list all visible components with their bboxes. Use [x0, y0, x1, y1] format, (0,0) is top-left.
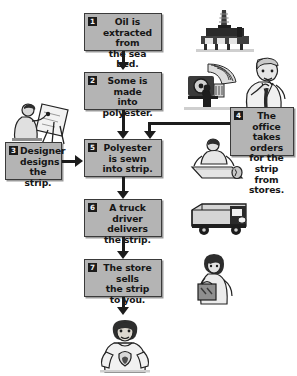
connector-3-to-5	[62, 160, 76, 163]
shop-assistant-with-bag-icon	[190, 252, 248, 306]
arrow-4-to-5	[144, 131, 156, 139]
step-text-3-line-3: the strip.	[9, 167, 58, 188]
step-number-4: 4	[234, 111, 243, 120]
step-text-2-line-1: Some is	[88, 76, 158, 87]
connector-4-to-5-horizontal	[148, 122, 230, 125]
arrow-6-to-7	[117, 251, 129, 259]
step-text-5-line-3: into strip.	[88, 164, 158, 175]
step-number-5: 5	[88, 143, 97, 152]
flowchart-diagram: 1 Oil is extracted from the sea bed. 2 S…	[0, 0, 297, 376]
arrow-3-to-5	[75, 155, 83, 167]
office-worker-on-phone-icon	[240, 55, 294, 110]
step-number-3: 3	[9, 146, 18, 155]
designer-at-easel-icon	[8, 100, 72, 146]
step-number-6: 6	[88, 203, 97, 212]
boy-wearing-strip-icon	[96, 318, 154, 374]
step-text-7-line-1: The store sells	[88, 263, 158, 284]
step-number-2: 2	[88, 76, 97, 85]
step-box-6: 6 A truck driver delivers the strip.	[84, 199, 162, 237]
step-number-1: 1	[88, 17, 97, 26]
step-number-7: 7	[88, 263, 97, 272]
arrow-1-to-2	[117, 62, 129, 70]
step-box-5: 5 Polyester is sewn into strip.	[84, 139, 162, 177]
arrow-2-to-5	[117, 131, 129, 139]
arrow-7-to-outcome	[117, 307, 129, 315]
arrow-5-to-6	[117, 191, 129, 199]
step-text-1-line-1: Oil is extracted	[88, 17, 158, 38]
delivery-truck-icon	[190, 198, 258, 240]
step-text-6-line-1: A truck driver	[88, 203, 158, 224]
step-box-2: 2 Some is made into polyester.	[84, 72, 162, 110]
step-text-5-line-1: Polyester	[88, 143, 158, 154]
fabric-roll-worker-icon	[186, 136, 246, 186]
oil-rig-icon	[196, 8, 254, 56]
step-box-7: 7 The store sells the strip to you.	[84, 259, 162, 297]
step-box-1: 1 Oil is extracted from the sea bed.	[84, 13, 162, 51]
step-box-3: 3 Designer designs the strip.	[5, 142, 62, 180]
